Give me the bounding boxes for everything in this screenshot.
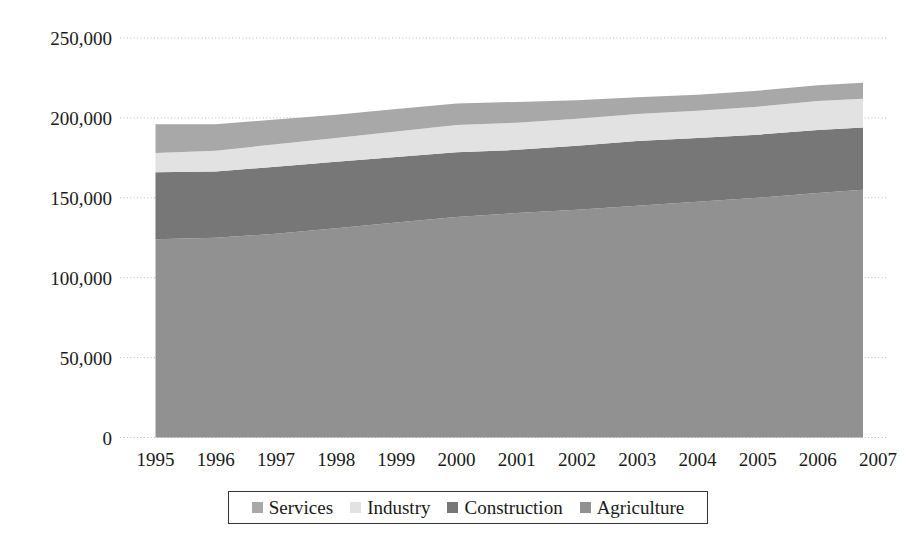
chart-legend: ServicesIndustryConstructionAgriculture <box>228 491 708 524</box>
x-axis-label-1995: 1995 <box>137 449 175 470</box>
legend-item-agriculture[interactable]: Agriculture <box>580 498 685 517</box>
y-axis-tick-labels: 050,000100,000150,000200,000250,000 <box>50 28 112 449</box>
legend-swatch-services-icon <box>252 502 263 513</box>
legend-item-industry[interactable]: Industry <box>350 498 430 517</box>
y-axis-label-100000: 100,000 <box>50 268 112 289</box>
legend-swatch-construction-icon <box>447 502 458 513</box>
legend-item-services[interactable]: Services <box>252 498 333 517</box>
y-axis-label-150000: 150,000 <box>50 188 112 209</box>
x-axis-label-2001: 2001 <box>498 449 536 470</box>
legend-label-agriculture: Agriculture <box>597 498 685 517</box>
x-axis-label-2000: 2000 <box>438 449 476 470</box>
x-axis-label-2007: 2007 <box>859 449 897 470</box>
x-axis-label-1996: 1996 <box>197 449 235 470</box>
area-series-group <box>156 83 864 438</box>
x-axis-label-2002: 2002 <box>558 449 596 470</box>
x-axis-label-1997: 1997 <box>257 449 295 470</box>
y-axis-label-250000: 250,000 <box>50 28 112 49</box>
x-axis-label-1999: 1999 <box>377 449 415 470</box>
y-axis-label-0: 0 <box>103 428 113 449</box>
x-axis-label-2005: 2005 <box>739 449 777 470</box>
legend-item-construction[interactable]: Construction <box>447 498 562 517</box>
legend-label-construction: Construction <box>464 498 562 517</box>
legend-swatch-industry-icon <box>350 502 361 513</box>
x-axis-label-2004: 2004 <box>678 449 717 470</box>
y-axis-label-50000: 50,000 <box>60 348 112 369</box>
x-axis-label-1998: 1998 <box>317 449 355 470</box>
x-axis-label-2003: 2003 <box>618 449 656 470</box>
legend-swatch-agriculture-icon <box>580 502 591 513</box>
x-axis-label-2006: 2006 <box>799 449 837 470</box>
stacked-area-chart: 050,000100,000150,000200,000250,000 1995… <box>0 0 920 552</box>
chart-plot-area: 050,000100,000150,000200,000250,000 1995… <box>0 0 920 552</box>
x-axis-tick-labels: 1995199619971998199920002001200220032004… <box>137 449 898 470</box>
legend-label-services: Services <box>269 498 333 517</box>
y-axis-label-200000: 200,000 <box>50 108 112 129</box>
legend-label-industry: Industry <box>367 498 430 517</box>
